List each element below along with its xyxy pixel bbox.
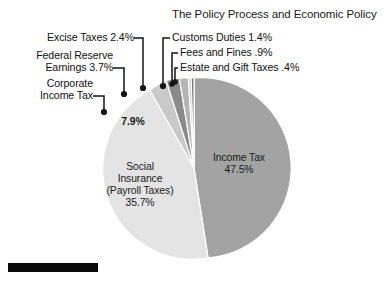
slice-label-income-tax-value: 47.5% (196, 164, 282, 176)
leader-dot-customs (160, 83, 166, 89)
slice-label-social-line1: Social (97, 161, 183, 173)
slice-label-social-line3: (Payroll Taxes) (97, 185, 183, 197)
callout-federal-reserve-line2: Earnings 3.7% (13, 62, 113, 74)
chart-title: The Policy Process and Economic Policy (172, 8, 377, 21)
callout-federal-reserve-line1: Federal Reserve (13, 50, 113, 62)
callout-label-corporate-income-tax: Corporate Income Tax (8, 78, 93, 101)
slice-label-income-tax-name: Income Tax (196, 152, 282, 164)
pie-chart-figure: The Policy Process and Economic Policy E… (0, 0, 388, 282)
slice-label-social-line2: Insurance (97, 173, 183, 185)
callout-corporate-line2: Income Tax (8, 90, 93, 102)
callout-label-federal-reserve: Federal Reserve Earnings 3.7% (13, 50, 113, 73)
slice-label-income-tax: Income Tax 47.5% (196, 152, 282, 176)
leader-dot-excise (140, 85, 146, 91)
slice-label-social-value: 35.7% (97, 197, 183, 209)
leader-dot-corporate (101, 109, 107, 115)
callout-corporate-line1: Corporate (8, 78, 93, 90)
callout-label-fees-and-fines: Fees and Fines .9% (180, 47, 272, 59)
leader-line-federal-reserve (113, 68, 124, 94)
slice-label-corporate-value: 7.9% (110, 116, 156, 128)
leader-line-excise (134, 38, 143, 88)
leader-line-customs (163, 38, 170, 86)
leader-dot-federal-reserve (121, 91, 127, 97)
callout-label-estate-and-gift-taxes: Estate and Gift Taxes .4% (180, 62, 299, 74)
slice-label-social-insurance: Social Insurance (Payroll Taxes) 35.7% (97, 161, 183, 209)
callout-label-excise-taxes: Excise Taxes 2.4% (24, 32, 134, 44)
callout-label-customs-duties: Customs Duties 1.4% (172, 32, 272, 44)
leader-dot-estate (172, 79, 178, 85)
footer-black-bar (8, 263, 98, 272)
